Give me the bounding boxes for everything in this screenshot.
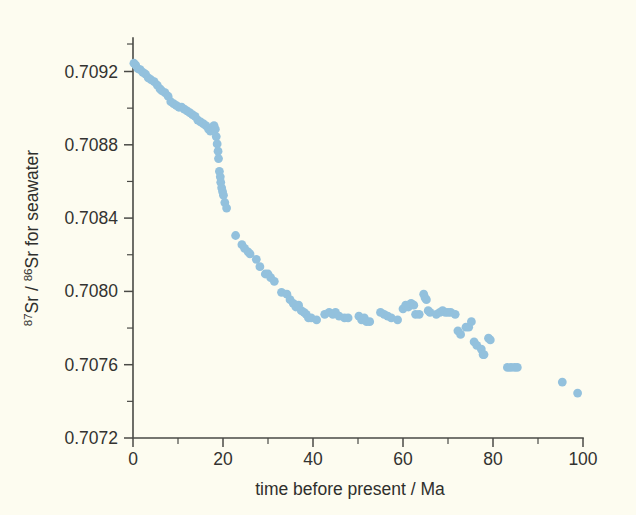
data-point <box>312 315 321 324</box>
data-point <box>513 363 522 372</box>
data-point <box>467 317 476 326</box>
y-tick-label: 0.7084 <box>64 208 118 228</box>
data-point <box>456 330 465 339</box>
x-axis-title: time before present / Ma <box>255 479 445 499</box>
data-point <box>393 315 402 324</box>
data-point <box>558 378 567 387</box>
y-tick-label: 0.7092 <box>64 62 118 82</box>
data-point <box>344 314 353 323</box>
x-tick-label: 100 <box>568 449 597 469</box>
x-tick-label: 80 <box>483 449 503 469</box>
y-tick-label: 0.7088 <box>64 135 118 155</box>
x-tick-label: 0 <box>128 449 138 469</box>
data-point <box>422 295 431 304</box>
data-point <box>214 154 223 163</box>
data-point <box>231 231 240 240</box>
x-tick-label: 40 <box>303 449 323 469</box>
data-point <box>480 350 489 359</box>
figure-container: 0.70720.70760.70800.70840.70880.70920204… <box>0 0 636 515</box>
data-point <box>365 317 374 326</box>
data-point <box>486 336 495 345</box>
x-tick-label: 20 <box>213 449 233 469</box>
strontium-isotope-scatter-chart: 0.70720.70760.70800.70840.70880.70920204… <box>0 0 636 515</box>
data-point <box>270 277 279 286</box>
data-point <box>573 389 582 398</box>
data-point <box>415 310 424 319</box>
data-point <box>451 310 460 319</box>
data-point <box>219 191 228 200</box>
y-tick-label: 0.7080 <box>64 281 118 301</box>
data-point <box>409 301 418 310</box>
x-tick-label: 60 <box>393 449 413 469</box>
data-point <box>256 262 265 271</box>
data-point <box>222 204 231 213</box>
y-axis-title: 87Sr / 86Sr for seawater <box>22 150 42 327</box>
y-tick-label: 0.7072 <box>64 428 118 448</box>
y-tick-label: 0.7076 <box>64 355 118 375</box>
svg-text:87Sr / 86Sr for seawater: 87Sr / 86Sr for seawater <box>22 150 42 327</box>
